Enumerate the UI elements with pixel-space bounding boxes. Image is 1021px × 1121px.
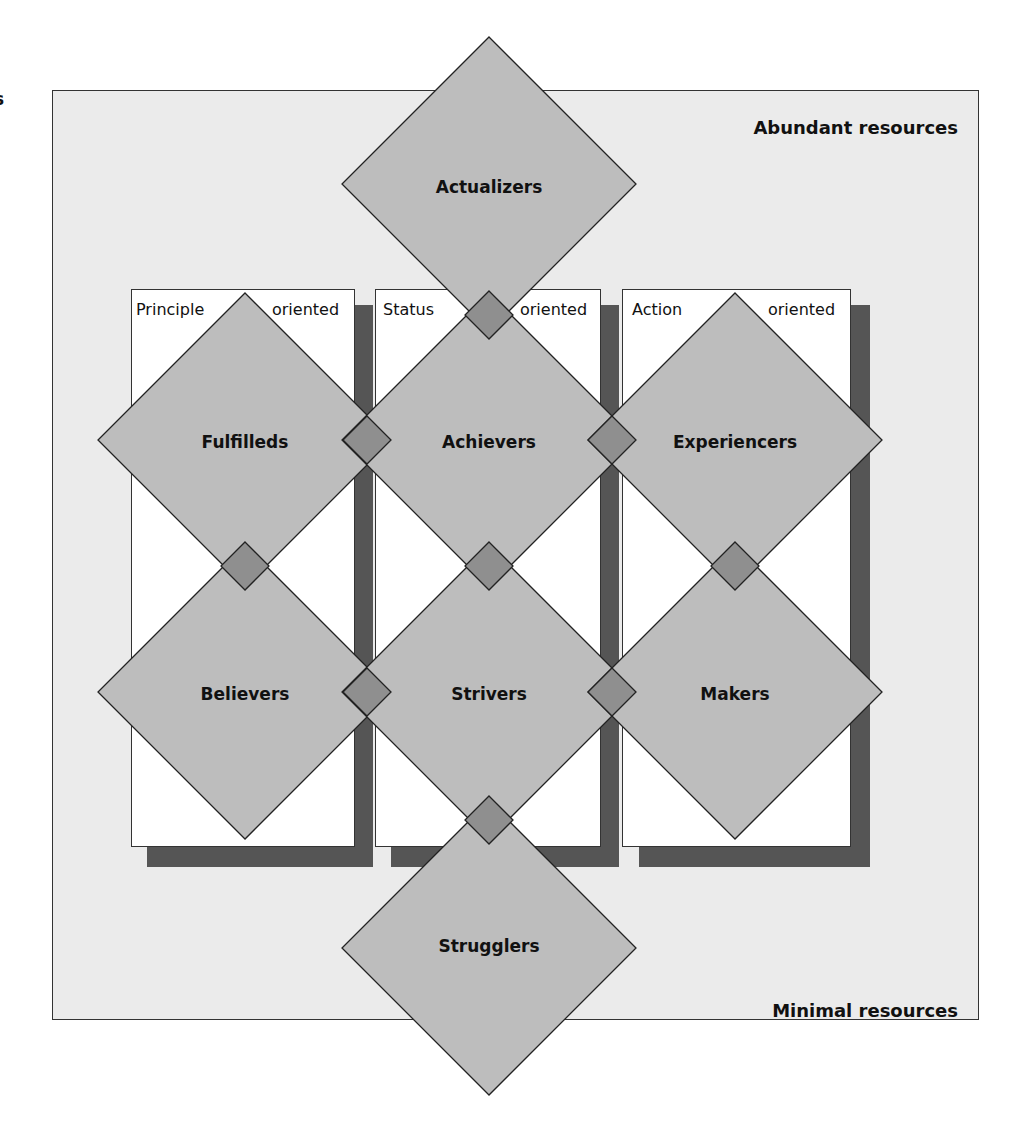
strivers-label: Strivers — [451, 684, 527, 704]
fulfilleds-label: Fulfilleds — [202, 432, 289, 452]
strugglers-label: Strugglers — [438, 936, 539, 956]
makers-label: Makers — [700, 684, 769, 704]
minimal-resources-label: Minimal resources — [772, 1000, 958, 1021]
experiencers-label: Experiencers — [673, 432, 797, 452]
achievers-label: Achievers — [442, 432, 536, 452]
actualizers-label: Actualizers — [436, 177, 543, 197]
abundant-resources-label: Abundant resources — [753, 117, 958, 138]
believers-label: Believers — [201, 684, 290, 704]
